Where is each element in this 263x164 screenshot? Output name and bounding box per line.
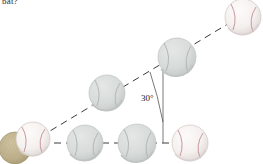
physics-trajectory-figure: bat? [0, 0, 263, 164]
ball-horizontal-2 [118, 124, 156, 162]
ball-trajectory-2 [158, 38, 196, 76]
ball-horizontal-1 [67, 125, 103, 161]
ball-at-launch [16, 122, 50, 156]
ball-trajectory-3 [225, 0, 261, 35]
ball-horizontal-3 [172, 125, 208, 161]
ball-trajectory-1 [89, 75, 125, 111]
figure-canvas [0, 0, 263, 164]
angle-label: 30° [141, 93, 154, 103]
ball-body [16, 122, 50, 156]
